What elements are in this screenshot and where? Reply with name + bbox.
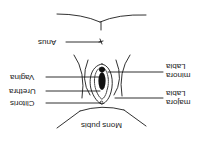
labia-majora-label: majora Labia — [166, 89, 190, 106]
labia-majora-label-line2: Labia — [166, 89, 190, 98]
mons-line-right — [124, 110, 146, 126]
buttock-curve-right — [100, 15, 146, 22]
vagina-label: Vagina — [10, 73, 34, 81]
thigh-curve-left — [74, 55, 83, 98]
anus-label: Anus — [38, 38, 56, 46]
buttock-curve-left — [57, 14, 100, 22]
thigh-curve-right — [121, 55, 130, 96]
clitoris — [100, 101, 103, 104]
inner-curve-right — [114, 60, 120, 95]
labia-minora-label: minora Labia — [166, 62, 190, 79]
inner-curve-left — [84, 60, 90, 95]
mons-pubis-label: Mons pubis — [81, 121, 122, 129]
clitoris-label: Clitoris — [10, 99, 34, 107]
labia-minora-label-line2: Labia — [166, 62, 190, 71]
mons-curve — [80, 107, 124, 111]
vaginal-opening — [98, 72, 105, 90]
labia-majora-label-line1: majora — [166, 98, 190, 107]
clitoris-hood — [99, 67, 105, 72]
anatomy-diagram: Anus Vagina Urethra Clitoris Mons pubis … — [0, 0, 203, 149]
anus-marker — [99, 39, 103, 44]
urethra-label: Urethra — [9, 87, 36, 95]
labia-minora-label-line1: minora — [166, 71, 190, 80]
mons-line-left — [57, 111, 80, 128]
